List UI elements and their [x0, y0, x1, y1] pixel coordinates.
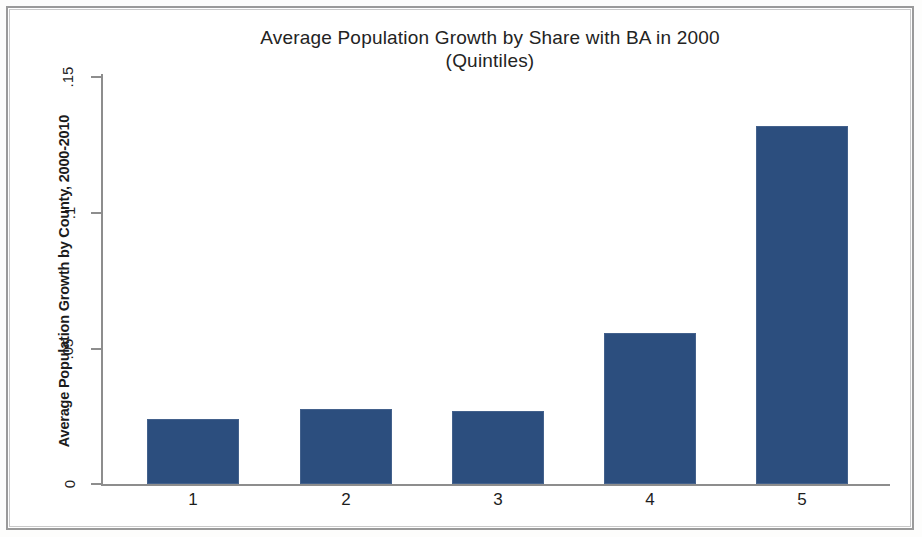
x-axis-line [101, 484, 890, 486]
bar-quintile-3[interactable] [452, 411, 544, 484]
y-axis-tick-mark [91, 483, 102, 485]
bar-quintile-4[interactable] [604, 333, 696, 484]
bar-quintile-2[interactable] [300, 409, 392, 484]
x-axis-tick-label: 4 [620, 490, 680, 510]
bar-quintile-5[interactable] [756, 126, 848, 484]
x-axis-tick-label: 5 [772, 490, 832, 510]
y-axis-tick-mark [91, 348, 102, 350]
x-axis-tick-label: 1 [163, 490, 223, 510]
plot-area: .15 .1 .05 0 1 2 3 4 5 [0, 0, 922, 537]
x-axis-tick-label: 2 [316, 490, 376, 510]
y-axis-tick-label: .05 [59, 329, 77, 369]
chart-screenshot: Average Population Growth by Share with … [0, 0, 922, 537]
bar-quintile-1[interactable] [147, 419, 239, 484]
y-axis-tick-mark [91, 76, 102, 78]
y-axis-line [101, 74, 103, 486]
y-axis-tick-label: .15 [59, 57, 77, 97]
y-axis-tick-label: 0 [61, 464, 79, 504]
y-axis-tick-label: .1 [61, 193, 79, 233]
x-axis-tick-label: 3 [468, 490, 528, 510]
y-axis-tick-mark [91, 212, 102, 214]
